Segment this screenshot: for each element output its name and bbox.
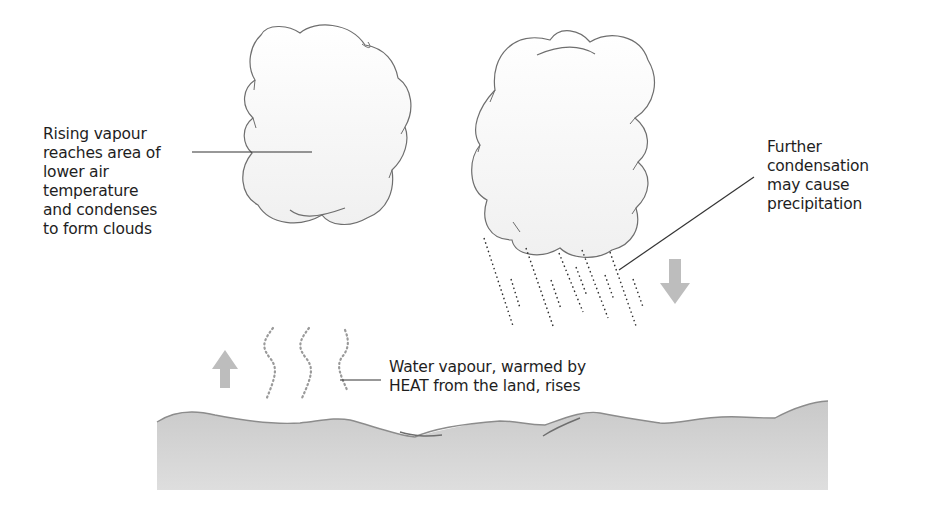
- land-surface: [157, 401, 828, 490]
- arrow-down-icon: [660, 259, 690, 304]
- arrow-up-icon: [212, 350, 238, 388]
- label-further-condensation: Further condensation may cause precipita…: [767, 138, 907, 214]
- cloud-left-icon: [243, 25, 411, 225]
- label-rising-vapour: Rising vapour reaches area of lower air …: [43, 125, 203, 239]
- cloud-right-icon: [472, 31, 655, 258]
- water-cycle-diagram: [0, 0, 931, 507]
- vapour-wisps-icon: [264, 328, 348, 400]
- label-water-vapour: Water vapour, warmed by HEAT from the la…: [389, 358, 649, 396]
